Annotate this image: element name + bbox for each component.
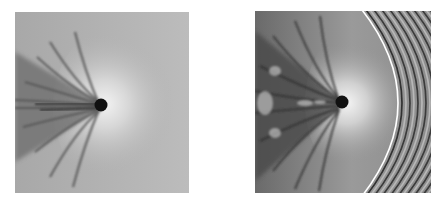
left-shadowgraph-image bbox=[15, 12, 189, 193]
sphere bbox=[95, 99, 108, 112]
right-image-graphic bbox=[255, 11, 431, 193]
sphere bbox=[336, 96, 349, 109]
right-shadowgraph-image bbox=[255, 11, 431, 193]
left-image-graphic bbox=[15, 12, 189, 193]
